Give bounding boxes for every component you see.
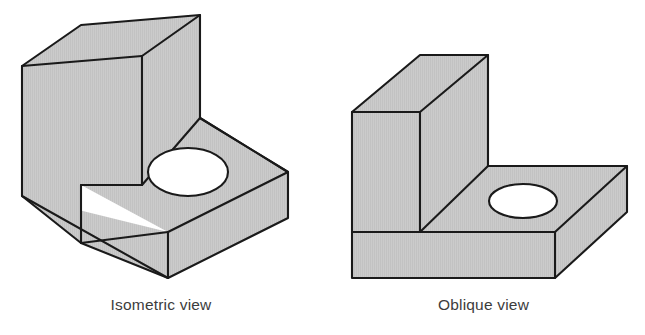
oblique-view-drawing	[352, 55, 627, 278]
oblique-wall-front-face	[352, 112, 420, 232]
isometric-hole-ellipse	[148, 148, 228, 196]
technical-drawing-figure: Isometric view Oblique view	[0, 0, 645, 335]
drawing-canvas	[0, 0, 645, 335]
isometric-view-drawing	[22, 15, 288, 278]
oblique-base-front-face	[352, 232, 555, 278]
oblique-hole-ellipse	[489, 184, 557, 218]
